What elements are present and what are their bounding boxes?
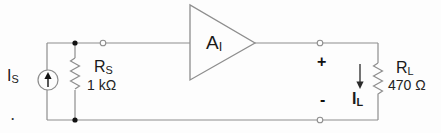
load-current-arrow-head xyxy=(356,82,363,90)
load-resistor-label: RL xyxy=(396,60,414,76)
junction-dot-bottom xyxy=(72,117,77,122)
resistor-rl-icon xyxy=(374,63,383,97)
circuit-diagram: IS RS 1 kΩ AI + - IL RL 470 Ω . xyxy=(0,0,441,133)
terminal-node-input-icon xyxy=(100,40,106,46)
resistor-rs-icon xyxy=(71,58,80,89)
terminal-node-output-top-icon xyxy=(317,40,323,46)
output-minus-sign: - xyxy=(320,92,325,108)
source-resistor-label: RS xyxy=(94,59,113,75)
amplifier-gain-label: AI xyxy=(206,33,222,52)
amplifier-triangle-icon xyxy=(190,5,255,80)
source-current-label: IS xyxy=(7,68,19,84)
source-resistor-value: 1 kΩ xyxy=(87,78,116,92)
stray-period-mark: . xyxy=(11,110,14,122)
junction-dot-top xyxy=(72,40,77,45)
circuit-schematic-drawing xyxy=(0,0,441,133)
output-plus-sign: + xyxy=(317,54,326,70)
load-resistor-value: 470 Ω xyxy=(388,78,426,92)
load-current-label: IL xyxy=(352,91,363,107)
terminal-node-output-bottom-icon xyxy=(317,117,323,123)
